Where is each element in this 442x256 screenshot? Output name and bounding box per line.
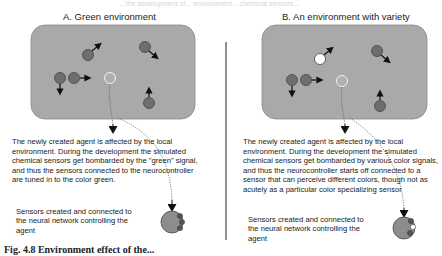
panel-b-environment bbox=[262, 25, 427, 119]
faded-background-text: ...the development of... environment... … bbox=[120, 0, 299, 7]
panel-a-sensor-caption: Sensors created and connected to the neu… bbox=[16, 207, 140, 235]
panel-a-title: A. Green environment bbox=[63, 11, 156, 22]
panel-b-sensor-caption: Sensors created and connected to the neu… bbox=[248, 215, 372, 243]
panel-a-description: The newly created agent is affected by t… bbox=[12, 137, 202, 185]
sensor-agent-icon bbox=[161, 211, 185, 233]
figure-caption: Fig. 4.8 Environment effect of the... bbox=[4, 244, 154, 255]
panel-b-description: The newly created agent is affected by t… bbox=[243, 137, 439, 195]
sensor-agent-icon bbox=[393, 217, 416, 239]
new-agent-icon bbox=[105, 73, 116, 84]
panel-b-title: B. An environment with variety bbox=[282, 11, 410, 22]
panel-a-environment bbox=[31, 25, 195, 119]
new-agent-icon bbox=[337, 76, 348, 87]
